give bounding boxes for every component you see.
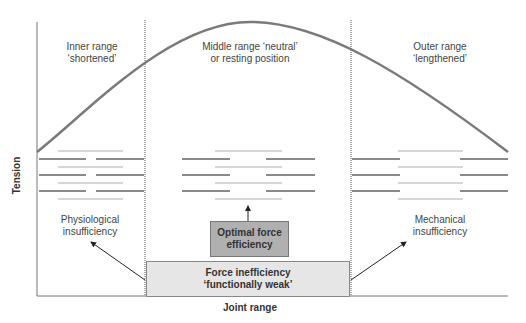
inner-range-label: Inner range ‘shortened’ — [50, 41, 134, 65]
mechanical-line1: Mechanical — [395, 214, 485, 226]
x-axis-label: Joint range — [200, 302, 300, 314]
sarcomere-inner — [39, 151, 144, 199]
outer-range-subtitle: ‘lengthened’ — [390, 53, 490, 65]
mechanical-line2: insufficiency — [395, 226, 485, 238]
physiological-line1: Physiological — [45, 214, 135, 226]
optimal-force-efficiency-box: Optimal force efficiency — [210, 221, 289, 257]
arrow-to-mechanical — [351, 242, 406, 280]
mechanical-insufficiency-label: Mechanical insufficiency — [395, 214, 485, 238]
sarcomere-middle — [182, 151, 315, 199]
middle-range-subtitle: or resting position — [180, 53, 320, 65]
physiological-line2: insufficiency — [45, 226, 135, 238]
physiological-insufficiency-label: Physiological insufficiency — [45, 214, 135, 238]
arrow-to-physiological — [91, 242, 145, 280]
middle-range-title: Middle range ‘neutral’ — [180, 41, 320, 53]
optimal-line2: efficiency — [217, 239, 281, 251]
sarcomere-outer — [352, 151, 508, 199]
inner-range-title: Inner range — [50, 41, 134, 53]
outer-range-title: Outer range — [390, 41, 490, 53]
optimal-line1: Optimal force — [217, 227, 281, 239]
inefficiency-line1: Force inefficiency — [204, 267, 293, 279]
y-axis-label: Tension — [11, 156, 22, 196]
middle-range-label: Middle range ‘neutral’ or resting positi… — [180, 41, 320, 65]
inefficiency-line2: ‘functionally weak’ — [204, 279, 293, 291]
force-inefficiency-box: Force inefficiency ‘functionally weak’ — [146, 261, 350, 297]
inner-range-subtitle: ‘shortened’ — [50, 53, 134, 65]
outer-range-label: Outer range ‘lengthened’ — [390, 41, 490, 65]
